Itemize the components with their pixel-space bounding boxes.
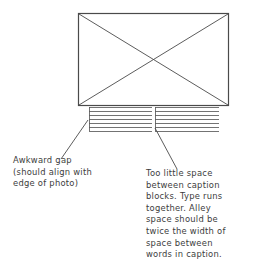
- photo-placeholder: [79, 14, 229, 106]
- caption-block-right: [155, 107, 219, 132]
- awkward-gap-annotation: Awkward gap (should align with edge of p…: [13, 155, 131, 190]
- leader-line-alley-space: [155, 128, 177, 169]
- diagram-canvas: Awkward gap (should align with edge of p…: [0, 0, 266, 274]
- leader-line-awkward-gap: [61, 120, 88, 159]
- alley-space-annotation: Too little space between caption blocks.…: [146, 168, 264, 261]
- caption-blocks-group: [89, 107, 219, 132]
- caption-block-left: [89, 107, 152, 132]
